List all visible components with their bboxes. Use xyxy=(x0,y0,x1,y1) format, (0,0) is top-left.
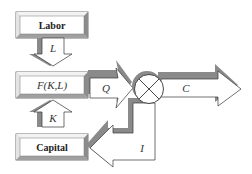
flow-diagram: Labor L F(K,L) K Capital Q xyxy=(0,0,252,174)
labor-label: Labor xyxy=(39,20,66,31)
labor-flow-arrow: L xyxy=(29,38,72,66)
labor-box: Labor xyxy=(16,12,88,38)
capital-box: Capital xyxy=(16,134,88,160)
production-label: F(K,L) xyxy=(36,79,68,92)
capital-flow-arrow: K xyxy=(29,100,72,127)
capital-flow-label: K xyxy=(48,112,57,124)
investment-flow-arrow: I xyxy=(86,98,155,167)
output-flow-arrow: Q xyxy=(88,60,133,108)
production-box: F(K,L) xyxy=(16,72,88,98)
capital-label: Capital xyxy=(36,142,68,153)
output-flow-label: Q xyxy=(102,82,110,94)
consumption-flow-label: C xyxy=(182,82,190,94)
consumption-flow-arrow: C xyxy=(158,64,241,106)
labor-flow-label: L xyxy=(49,42,56,54)
